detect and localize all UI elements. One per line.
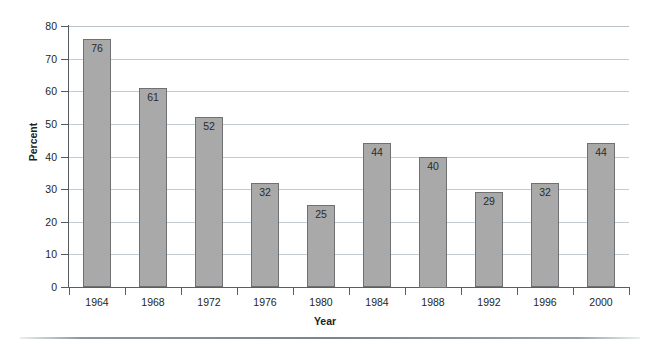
- gridline: [69, 26, 629, 27]
- x-axis-tick-label: 1968: [125, 297, 181, 308]
- bar-value-label: 25: [308, 209, 334, 220]
- gridline: [69, 59, 629, 60]
- bar-1976: 32: [251, 183, 279, 287]
- x-axis-tick: [181, 288, 182, 295]
- bar-1984: 44: [363, 143, 391, 287]
- y-axis-tick: [61, 124, 68, 125]
- bar-value-label: 32: [532, 187, 558, 198]
- x-axis-tick-label: 1984: [349, 297, 405, 308]
- x-axis-title: Year: [0, 315, 650, 327]
- bar-value-label: 40: [420, 161, 446, 172]
- footer-divider: [20, 337, 640, 339]
- bar-1988: 40: [419, 157, 447, 288]
- y-axis-tick: [61, 287, 68, 288]
- x-axis-tick: [517, 288, 518, 295]
- x-axis-tick: [237, 288, 238, 295]
- y-axis-tick-label: 0: [21, 282, 57, 293]
- y-axis-tick: [61, 59, 68, 60]
- bar-value-label: 44: [364, 147, 390, 158]
- x-axis-tick-label: 1976: [237, 297, 293, 308]
- y-axis-tick-label: 40: [21, 152, 57, 163]
- x-axis-tick: [349, 288, 350, 295]
- y-axis-tick-label: 60: [21, 86, 57, 97]
- x-axis-tick: [405, 288, 406, 295]
- x-axis-tick: [573, 288, 574, 295]
- y-axis-tick: [61, 26, 68, 27]
- y-axis-tick: [61, 189, 68, 190]
- bar-1992: 29: [475, 192, 503, 287]
- y-axis-tick-label: 10: [21, 249, 57, 260]
- y-axis-tick-label: 70: [21, 54, 57, 65]
- bar-chart-figure: Percent 01020304050607080 76615232254440…: [0, 0, 650, 348]
- bar-value-label: 76: [84, 43, 110, 54]
- y-axis-tick: [61, 157, 68, 158]
- bar-value-label: 44: [588, 147, 614, 158]
- bar-value-label: 29: [476, 196, 502, 207]
- bar-1972: 52: [195, 117, 223, 287]
- x-axis-tick: [69, 288, 70, 295]
- x-axis-tick: [293, 288, 294, 295]
- x-axis-tick-label: 1992: [461, 297, 517, 308]
- y-axis-tick-label: 30: [21, 184, 57, 195]
- x-axis-tick-label: 1988: [405, 297, 461, 308]
- x-axis-tick: [125, 288, 126, 295]
- x-axis-tick-label: 2000: [573, 297, 629, 308]
- plot-area: 76615232254440293244: [69, 26, 629, 287]
- bar-1964: 76: [83, 39, 111, 287]
- x-axis-tick-label: 1996: [517, 297, 573, 308]
- bar-2000: 44: [587, 143, 615, 287]
- x-axis-tick-label: 1964: [69, 297, 125, 308]
- bar-1968: 61: [139, 88, 167, 287]
- bar-1996: 32: [531, 183, 559, 287]
- bar-1980: 25: [307, 205, 335, 287]
- y-axis-tick-label: 20: [21, 217, 57, 228]
- y-axis-tick-label: 80: [21, 21, 57, 32]
- y-axis-tick: [61, 91, 68, 92]
- y-axis-tick: [61, 222, 68, 223]
- x-axis-tick-label: 1980: [293, 297, 349, 308]
- x-axis-tick: [461, 288, 462, 295]
- x-axis-tick-label: 1972: [181, 297, 237, 308]
- bar-value-label: 52: [196, 121, 222, 132]
- bar-value-label: 61: [140, 92, 166, 103]
- y-axis-tick: [61, 254, 68, 255]
- x-axis-tick: [629, 288, 630, 295]
- y-axis-tick-label: 50: [21, 119, 57, 130]
- bar-value-label: 32: [252, 187, 278, 198]
